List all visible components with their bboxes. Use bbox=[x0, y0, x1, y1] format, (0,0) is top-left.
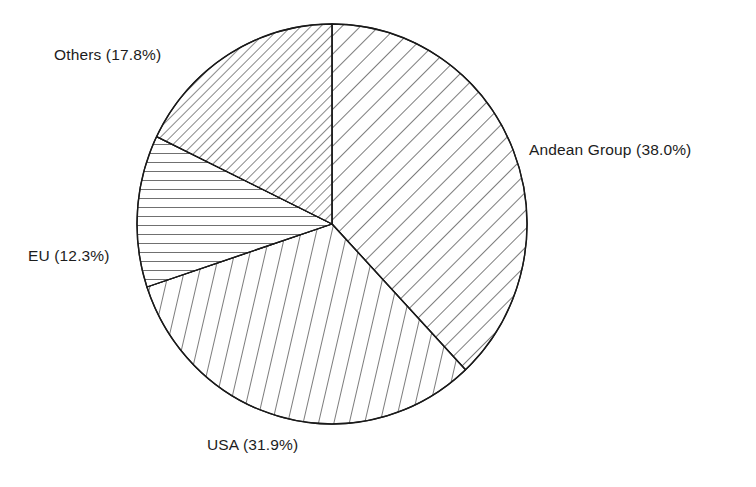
slice-label-others: Others (17.8%) bbox=[54, 46, 161, 64]
slice-label-usa: USA (31.9%) bbox=[207, 436, 298, 454]
pie-chart-graphic bbox=[0, 0, 756, 487]
slice-label-andean-group: Andean Group (38.0%) bbox=[529, 141, 691, 159]
slice-label-eu: EU (12.3%) bbox=[28, 247, 110, 265]
pie-chart: Others (17.8%) Andean Group (38.0%) EU (… bbox=[0, 0, 756, 487]
